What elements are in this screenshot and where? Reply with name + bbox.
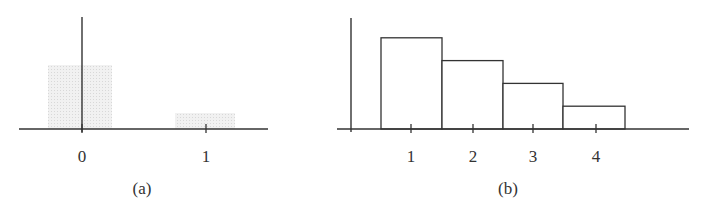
bar-b-1 [381, 38, 442, 129]
bar-a-0 [48, 65, 112, 129]
x-tick-label-b-4: 4 [592, 147, 601, 166]
bar-a-1 [175, 113, 235, 129]
bar-b-3 [503, 83, 563, 129]
x-tick-label-b-1: 1 [407, 147, 416, 166]
x-tick-label-a-0: 0 [78, 147, 87, 166]
panel-caption-b: (b) [498, 179, 518, 198]
x-tick-label-b-3: 3 [529, 147, 538, 166]
x-tick-label-a-1: 1 [202, 147, 211, 166]
bar-b-2 [442, 61, 503, 129]
bar-b-4 [563, 106, 625, 129]
panel-a-chart: 01(a) [19, 17, 268, 198]
panel-caption-a: (a) [133, 179, 152, 198]
figure-canvas: 01(a) 1234(b) [0, 0, 715, 212]
x-tick-label-b-2: 2 [469, 147, 478, 166]
panel-b-chart: 1234(b) [337, 18, 689, 198]
